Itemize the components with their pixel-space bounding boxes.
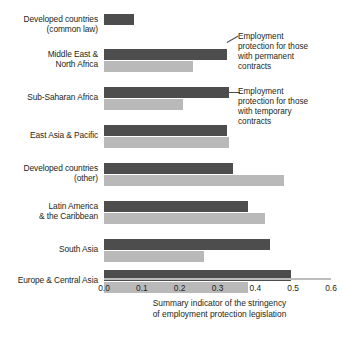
bar-permanent (104, 87, 229, 98)
bar-permanent (104, 239, 270, 250)
bar-permanent (104, 201, 248, 212)
category-label-column: Developed countries (common law)Middle E… (0, 8, 98, 278)
category-label: Latin America & the Caribbean (0, 202, 98, 222)
annotation-temporary-contracts: Employment protection for those with tem… (238, 87, 334, 127)
category-label: South Asia (0, 245, 98, 255)
x-tick-label: 0.3 (203, 283, 233, 294)
x-tick-label: 0.1 (127, 283, 157, 294)
annotation-permanent-contracts: Employment protection for those with per… (238, 32, 334, 72)
x-tick-label: 0.4 (240, 283, 270, 294)
bar-permanent (104, 163, 233, 174)
bar-permanent (104, 125, 227, 136)
x-tick-label: 0.0 (89, 283, 119, 294)
bar-temporary (104, 175, 284, 186)
bar-temporary (104, 61, 193, 72)
bar-temporary (104, 99, 183, 110)
x-axis-title: Summary indicator of the stringency of e… (104, 298, 335, 319)
category-label: Developed countries (common law) (0, 15, 98, 35)
x-tick-label: 0.6 (316, 283, 342, 294)
bar-permanent (104, 49, 227, 60)
bar-temporary (104, 251, 204, 262)
bar-permanent (104, 14, 134, 25)
x-axis-line (104, 278, 331, 280)
category-label: Sub-Saharan Africa (0, 93, 98, 103)
category-label: Middle East & North Africa (0, 50, 98, 70)
bar-temporary (104, 137, 229, 148)
x-tick-label: 0.5 (278, 283, 308, 294)
category-label: East Asia & Pacific (0, 131, 98, 141)
x-axis-tick-labels: 0.00.10.20.30.40.50.6 (0, 283, 335, 295)
x-tick-label: 0.2 (165, 283, 195, 294)
category-label: Developed countries (other) (0, 164, 98, 184)
bar-temporary (104, 213, 265, 224)
